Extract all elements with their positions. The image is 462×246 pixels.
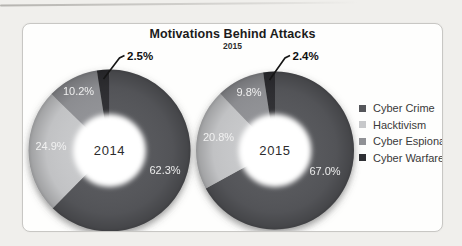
slice-label-cyber-espionage: 9.8% [236,86,261,98]
donut-center-year: 2015 [259,143,290,158]
legend-item-hacktivism: Hacktivism [359,117,443,134]
donut-center-year: 2014 [94,143,125,158]
legend-label: Cyber Crime [373,102,435,114]
donut-chart-2014: 62.3%24.9%10.2%2.5%2014 [28,50,190,232]
legend-swatch-icon [359,154,366,161]
legend-label: Cyber Espionage [373,135,443,147]
legend-label: Cyber Warfare [373,152,443,164]
legend-swatch-icon [359,105,366,112]
slice-label-cyber-crime: 67.0% [309,165,340,177]
slice-label-hacktivism: 20.8% [203,131,234,143]
scan-artifact-streak [0,1,358,6]
slice-label-cyber-espionage: 10.2% [63,85,94,97]
legend-item-cyber-espionage: Cyber Espionage [359,133,443,150]
donut-chart-2015: 67.0%20.8%9.8%2.4%2015 [196,50,354,230]
legend-item-cyber-crime: Cyber Crime [359,100,443,117]
slice-label-hacktivism: 24.9% [35,140,66,152]
legend-swatch-icon [359,138,366,145]
slice-label-cyber-crime: 62.3% [149,164,180,176]
chart-card: Motivations Behind Attacks 2015 62.3%24.… [22,23,443,232]
legend-label: Hacktivism [373,119,426,131]
legend-item-cyber-warfare: Cyber Warfare [359,150,443,167]
legend-swatch-icon [359,121,366,128]
callout-label-2014: 2.5% [127,50,153,62]
callout-label-2015: 2.4% [293,50,319,62]
chart-legend: Cyber CrimeHacktivismCyber EspionageCybe… [359,100,443,166]
